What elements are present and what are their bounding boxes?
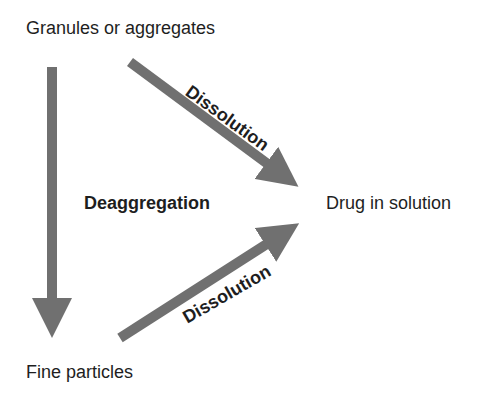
node-granules: Granules or aggregates bbox=[26, 18, 215, 39]
node-fine-particles: Fine particles bbox=[26, 362, 133, 383]
dissolution-arrow-upper bbox=[130, 62, 284, 176]
diagram-canvas: Granules or aggregates Drug in solution … bbox=[0, 0, 497, 401]
node-drug-in-solution: Drug in solution bbox=[326, 193, 451, 214]
edge-label-deaggregation: Deaggregation bbox=[84, 193, 210, 214]
